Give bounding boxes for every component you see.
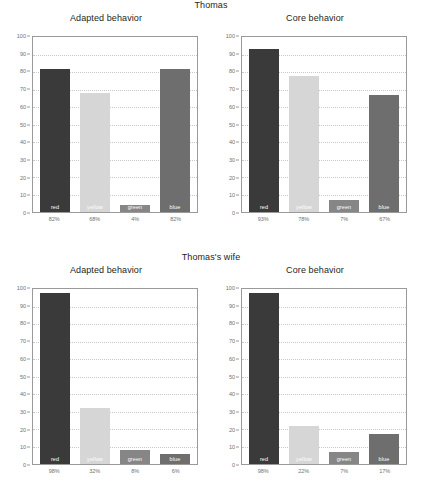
y-tick-label: 20 [20,175,26,181]
group-title-thomas: Thomas [0,0,422,11]
x-axis-label-green: 7% [329,467,359,475]
y-tick-mark [27,305,30,306]
bar-green[interactable]: green [329,200,359,212]
x-axis-value-labels: 98%32%8%6% [32,467,198,475]
plot-wrapper: 1009080706050403020100 redyellowgreenblu… [215,282,415,468]
bar-slot-yellow: yellow [80,37,110,212]
plot-area: redyellowgreenblue [32,288,198,465]
bar-red[interactable]: red [249,293,279,465]
y-tick-label: 100 [226,285,235,291]
x-axis-label-blue: 67% [370,215,400,223]
bar-blue[interactable]: blue [160,69,190,213]
y-tick-label: 50 [229,122,235,128]
chart-title: Core behavior [215,264,415,276]
y-tick-mark [27,159,30,160]
bar-blue[interactable]: blue [369,95,399,212]
y-tick-label: 80 [229,68,235,74]
bar-slot-red: red [40,289,70,464]
bar-yellow[interactable]: yellow [80,408,110,464]
y-tick-mark [27,288,30,289]
x-axis-label-green: 8% [120,467,150,475]
x-axis-label-red: 98% [248,467,278,475]
y-tick-label: 70 [20,86,26,92]
y-tick-label: 90 [20,51,26,57]
x-axis-label-red: 98% [39,467,69,475]
y-tick-label: 40 [229,139,235,145]
chart-thomas-core-behavior: Core behavior 1009080706050403020100 red… [215,12,415,242]
bar-yellow[interactable]: yellow [289,426,319,465]
y-tick-label: 0 [23,210,26,216]
y-tick-mark [27,323,30,324]
x-axis-value-labels: 93%78%7%67% [241,215,407,223]
section-thomas: Thomas Adapted behavior 1009080706050403… [0,0,422,250]
x-axis-label-yellow: 32% [80,467,110,475]
y-tick-mark [236,213,239,214]
y-tick-mark [27,358,30,359]
y-tick-mark [27,177,30,178]
x-axis-label-red: 93% [248,215,278,223]
bar-label: blue [379,204,390,213]
bar-blue[interactable]: blue [160,454,190,465]
x-axis-label-yellow: 78% [289,215,319,223]
bar-slot-red: red [249,37,279,212]
bar-label: green [128,456,143,465]
y-tick-mark [236,106,239,107]
y-tick-label: 60 [20,104,26,110]
x-axis-label-green: 4% [120,215,150,223]
y-tick-mark [236,447,239,448]
bar-yellow[interactable]: yellow [80,93,110,212]
bar-slot-yellow: yellow [80,289,110,464]
bar-red[interactable]: red [40,69,70,213]
x-axis-label-red: 82% [39,215,69,223]
x-axis-label-blue: 82% [161,215,191,223]
y-tick-mark [236,358,239,359]
bar-blue[interactable]: blue [369,434,399,464]
y-tick-mark [236,89,239,90]
bar-label: green [128,205,143,212]
bar-slot-green: green [329,289,359,464]
bar-green[interactable]: green [329,452,359,464]
bar-slot-yellow: yellow [289,37,319,212]
x-axis-label-yellow: 68% [80,215,110,223]
y-tick-mark [27,429,30,430]
y-tick-mark [27,447,30,448]
bar-yellow[interactable]: yellow [289,76,319,213]
y-tick-mark [236,53,239,54]
bar-green[interactable]: green [120,450,150,464]
bar-label: yellow [296,204,312,213]
plot-area: redyellowgreenblue [32,36,198,213]
bars: redyellowgreenblue [33,289,197,464]
y-tick-label: 60 [20,356,26,362]
y-tick-mark [236,288,239,289]
bar-red[interactable]: red [40,293,70,465]
bar-label: yellow [87,456,103,465]
y-tick-label: 10 [20,192,26,198]
bar-slot-red: red [40,37,70,212]
y-tick-mark [27,376,30,377]
y-axis: 1009080706050403020100 [6,288,30,465]
y-tick-label: 80 [229,320,235,326]
y-tick-mark [236,305,239,306]
y-tick-mark [27,124,30,125]
y-tick-label: 90 [229,51,235,57]
chart-title: Core behavior [215,12,415,24]
bar-green[interactable]: green [120,205,150,212]
y-tick-label: 0 [232,462,235,468]
y-tick-label: 90 [20,303,26,309]
y-tick-mark [27,195,30,196]
chart-wife-adapted-behavior: Adapted behavior 1009080706050403020100 … [6,264,206,494]
y-axis: 1009080706050403020100 [6,36,30,213]
y-tick-label: 100 [17,285,26,291]
y-tick-label: 70 [229,338,235,344]
chart-thomas-adapted-behavior: Adapted behavior 1009080706050403020100 … [6,12,206,242]
y-tick-mark [27,341,30,342]
y-tick-label: 20 [229,427,235,433]
bar-label: blue [379,456,390,465]
bar-red[interactable]: red [249,49,279,212]
plot-area: redyellowgreenblue [241,288,407,465]
y-tick-mark [236,376,239,377]
y-axis: 1009080706050403020100 [215,36,239,213]
bar-label: yellow [296,456,312,465]
y-tick-label: 10 [20,444,26,450]
y-tick-label: 100 [17,33,26,39]
